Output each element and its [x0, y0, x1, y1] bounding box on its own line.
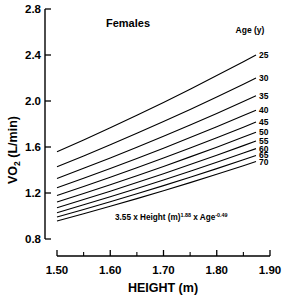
legend-label-age-30: 30 [259, 73, 269, 83]
x-tick-label-1.80: 1.80 [206, 264, 228, 276]
equation-part-2: x Age [191, 213, 216, 222]
curve-age-60 [57, 149, 256, 213]
plot-title: Females [106, 17, 150, 29]
x-axis-title: HEIGHT (m) [128, 281, 198, 295]
legend-label-age-45: 45 [259, 117, 269, 127]
y-axis-title: VO2 (L/min) [6, 116, 22, 184]
legend-label-age-70: 70 [259, 157, 269, 167]
y-axis-title-unit: (L/min) [6, 116, 20, 161]
legend-title: Age (y) [236, 25, 265, 35]
x-tick-label-1.60: 1.60 [99, 264, 121, 276]
x-tick-label-1.90: 1.90 [259, 264, 281, 276]
legend-label-age-40: 40 [259, 105, 269, 115]
y-tick-label-1.6: 1.6 [25, 141, 41, 153]
y-tick-label-2.0: 2.0 [25, 95, 41, 107]
y-tick-label-2.8: 2.8 [25, 3, 42, 15]
equation-height-exponent: 1.88 [181, 212, 192, 218]
equation-part-1: 3.55 x Height (m) [115, 213, 181, 222]
curve-age-65 [57, 155, 256, 217]
equation-annotation: 3.55 x Height (m)1.88 x Age-0.49 [115, 212, 228, 223]
x-tick-label-1.70: 1.70 [152, 264, 174, 276]
legend-label-age-35: 35 [259, 91, 269, 101]
legend-labels: 25303540455055606570 [259, 50, 269, 167]
y-tick-label-2.4: 2.4 [25, 49, 42, 61]
equation-age-exponent: -0.49 [215, 212, 227, 218]
x-tick-label-1.50: 1.50 [46, 264, 68, 276]
legend-label-age-25: 25 [259, 50, 269, 60]
y-tick-label-1.2: 1.2 [25, 187, 41, 199]
x-axis-ticks: 1.501.601.701.801.90 [46, 250, 281, 276]
y-axis-title-main: VO [6, 166, 20, 184]
chart-figure: 0.81.21.62.02.42.8 VO2 (L/min) 1.501.601… [0, 0, 283, 300]
curve-age-25 [57, 55, 256, 152]
y-tick-label-0.8: 0.8 [25, 233, 42, 245]
y-axis-ticks: 0.81.21.62.02.42.8 [25, 3, 51, 245]
curve-group [57, 55, 256, 221]
chart-svg: 0.81.21.62.02.42.8 VO2 (L/min) 1.501.601… [0, 0, 283, 300]
svg-text:VO2 (L/min): VO2 (L/min) [6, 116, 22, 184]
